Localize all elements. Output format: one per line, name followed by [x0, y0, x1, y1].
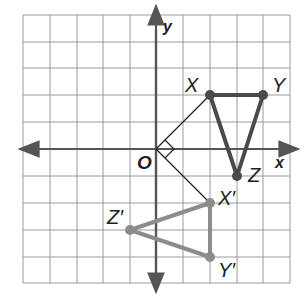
vertex-label-x: X — [185, 75, 198, 95]
origin-label: O — [137, 153, 152, 172]
x-axis-label: x — [275, 155, 284, 171]
vertex-label-x-prime: X′ — [218, 188, 235, 208]
coordinate-plane — [0, 0, 308, 297]
vertex-label-y: Y — [272, 75, 285, 95]
y-axis-label: y — [163, 19, 172, 35]
vertex-label-z: Z — [248, 165, 260, 185]
vertex-label-z-prime: Z′ — [107, 207, 123, 227]
vertex-label-y-prime: Y′ — [218, 260, 235, 280]
